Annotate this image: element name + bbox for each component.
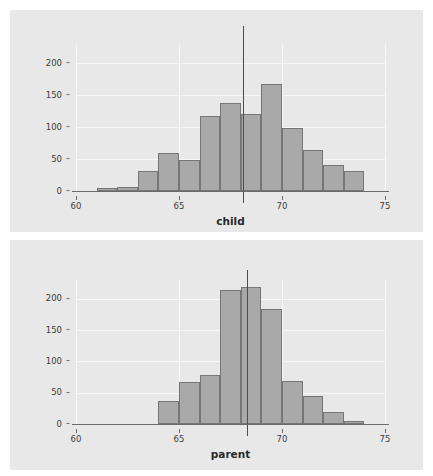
gridline-vertical	[385, 44, 386, 191]
histogram-bar	[200, 116, 221, 191]
plot-area-child	[76, 44, 385, 191]
x-axis-tick-label: 70	[277, 435, 288, 444]
y-axis-tick: –	[66, 155, 70, 163]
x-axis-tick	[385, 429, 386, 433]
histogram-bar	[303, 396, 324, 424]
panel-parent: 60657075–0–50–100–150–200 parent	[0, 240, 433, 476]
y-axis-tick-label: 100	[18, 123, 62, 132]
histogram-bar	[261, 309, 282, 424]
x-axis-tick	[282, 429, 283, 433]
panel-child: 60657075–0–50–100–150–200 child	[0, 0, 433, 240]
y-axis-tick: –	[66, 91, 70, 99]
x-axis-tick-label: 65	[174, 435, 185, 444]
mean-reference-line	[243, 26, 244, 203]
y-axis-tick-label: 150	[18, 91, 62, 100]
y-axis-tick: –	[66, 187, 70, 195]
y-axis-tick: –	[66, 420, 70, 428]
histogram-bar	[138, 171, 159, 191]
y-axis-tick: –	[66, 389, 70, 397]
histogram-bar	[261, 84, 282, 191]
gridline-horizontal	[76, 63, 385, 64]
y-axis-tick-label: 200	[18, 59, 62, 68]
histogram-bar	[344, 171, 365, 191]
x-axis-line	[72, 424, 389, 425]
y-axis-tick: –	[66, 295, 70, 303]
x-axis-tick	[385, 196, 386, 200]
histogram-bar	[303, 150, 324, 191]
gridline-vertical	[76, 280, 77, 424]
x-axis-tick	[179, 196, 180, 200]
histogram-bar	[179, 160, 200, 191]
x-axis-tick-label: 75	[380, 435, 391, 444]
x-axis-tick	[179, 429, 180, 433]
y-axis-tick-label: 0	[18, 187, 62, 196]
plot-area-parent	[76, 280, 385, 424]
histogram-bar	[323, 165, 344, 191]
histogram-bar	[158, 153, 179, 191]
y-axis-tick-label: 0	[18, 420, 62, 429]
x-axis-tick-label: 60	[71, 202, 82, 211]
gridline-vertical	[76, 44, 77, 191]
histogram-bar	[323, 412, 344, 424]
y-axis-tick-label: 150	[18, 326, 62, 335]
y-axis-tick: –	[66, 357, 70, 365]
x-axis-tick-label: 60	[71, 435, 82, 444]
histogram-bar	[282, 381, 303, 424]
y-axis-tick-label: 200	[18, 294, 62, 303]
histogram-bar	[220, 290, 241, 424]
figure-root: 60657075–0–50–100–150–200 child 60657075…	[0, 0, 433, 476]
histogram-bar	[158, 401, 179, 424]
x-axis-line	[72, 191, 389, 192]
histogram-bar	[282, 128, 303, 191]
y-axis-tick: –	[66, 326, 70, 334]
x-axis-title-child: child	[216, 215, 244, 227]
x-axis-tick	[76, 429, 77, 433]
x-axis-tick-label: 70	[277, 202, 288, 211]
y-axis-tick: –	[66, 59, 70, 67]
gridline-horizontal	[76, 95, 385, 96]
y-axis-tick-label: 50	[18, 388, 62, 397]
x-axis-tick-label: 65	[174, 202, 185, 211]
x-axis-title-parent: parent	[211, 448, 250, 460]
y-axis-tick-label: 50	[18, 155, 62, 164]
x-axis-tick	[76, 196, 77, 200]
histogram-bar	[179, 382, 200, 424]
x-axis-tick	[282, 196, 283, 200]
histogram-bar	[241, 287, 262, 424]
mean-reference-line	[247, 270, 248, 436]
x-axis-tick-label: 75	[380, 202, 391, 211]
y-axis-tick-label: 100	[18, 357, 62, 366]
gridline-vertical	[385, 280, 386, 424]
histogram-bar	[200, 375, 221, 424]
y-axis-tick: –	[66, 123, 70, 131]
histogram-bar	[220, 103, 241, 191]
